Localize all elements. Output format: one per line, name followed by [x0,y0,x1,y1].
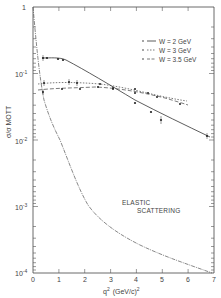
series-w35-points [42,86,181,105]
x-label-4: 4 [134,276,138,283]
y-label-1e-3: 10-3 [15,202,27,211]
x-label-0: 0 [31,276,35,283]
legend-w3: W = 3 GeV [159,47,192,54]
x-label-2: 2 [83,276,87,283]
y-ticks [33,27,214,270]
y-label-1e-4: 10-4 [15,268,27,277]
x-label-1: 1 [57,276,61,283]
y-label-1e-1: 10-1 [15,69,27,78]
series-w2-points [42,57,208,137]
y-label-1: 1 [22,4,26,11]
y-tick-labels: 1 10-1 10-2 10-3 10-4 [15,4,27,277]
x-label-5: 5 [160,276,164,283]
y-axis-title: σ/σ MOTT [5,105,12,138]
series-w3-points [43,81,149,94]
legend-w2: W = 2 GeV [159,38,192,45]
x-label-3: 3 [109,276,113,283]
series-w2-curve [42,58,210,137]
y-label-1e-2: 10-2 [15,136,27,145]
x-label-7: 7 [212,276,216,283]
x-tick-labels: 0 1 2 3 4 5 6 7 [31,276,216,283]
error-bars [43,55,207,139]
chart: 1 10-1 10-2 10-3 10-4 σ/σ MOTT 0 1 2 3 4… [0,0,221,298]
x-axis-title: q2(GeV/c)2 [103,286,140,296]
legend-w35: W = 3.5 GeV [159,56,197,63]
annotation-scattering: SCATTERING [137,207,180,214]
annotation-elastic: ELASTIC [122,199,151,206]
x-label-6: 6 [186,276,190,283]
legend: W = 2 GeV W = 3 GeV W = 3.5 GeV [142,38,197,63]
